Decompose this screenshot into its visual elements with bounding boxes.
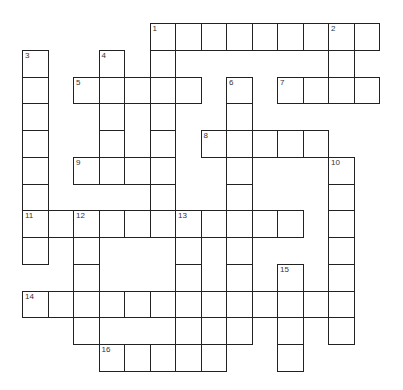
- crossword-cell[interactable]: [252, 23, 279, 51]
- crossword-cell[interactable]: [175, 237, 202, 265]
- crossword-cell[interactable]: [303, 291, 330, 319]
- crossword-cell[interactable]: [73, 291, 100, 319]
- crossword-cell[interactable]: 1: [150, 23, 177, 51]
- crossword-cell[interactable]: [22, 103, 49, 131]
- crossword-cell[interactable]: [22, 130, 49, 158]
- crossword-cell[interactable]: [175, 344, 202, 372]
- crossword-cell[interactable]: [252, 130, 279, 158]
- crossword-cell[interactable]: [277, 23, 304, 51]
- crossword-cell[interactable]: [175, 23, 202, 51]
- crossword-cell[interactable]: [150, 210, 177, 238]
- crossword-cell[interactable]: [99, 157, 126, 185]
- crossword-cell[interactable]: [277, 210, 304, 238]
- crossword-cell[interactable]: [48, 291, 75, 319]
- crossword-cell[interactable]: [252, 210, 279, 238]
- crossword-cell[interactable]: [48, 210, 75, 238]
- crossword-cell[interactable]: 11: [22, 210, 49, 238]
- crossword-cell[interactable]: [328, 237, 355, 265]
- crossword-cell[interactable]: [226, 103, 253, 131]
- crossword-cell[interactable]: [124, 344, 151, 372]
- crossword-cell[interactable]: 5: [73, 77, 100, 105]
- crossword-cell[interactable]: [99, 77, 126, 105]
- crossword-cell[interactable]: [328, 264, 355, 292]
- crossword-cell[interactable]: [277, 317, 304, 345]
- crossword-cell[interactable]: [303, 130, 330, 158]
- crossword-cell[interactable]: [150, 130, 177, 158]
- crossword-cell[interactable]: [201, 210, 228, 238]
- crossword-cell[interactable]: [22, 77, 49, 105]
- crossword-cell[interactable]: [226, 317, 253, 345]
- crossword-cell[interactable]: [201, 291, 228, 319]
- clue-number: 8: [204, 132, 208, 140]
- crossword-cell[interactable]: [175, 291, 202, 319]
- crossword-cell[interactable]: [99, 210, 126, 238]
- crossword-cell[interactable]: [124, 77, 151, 105]
- crossword-cell[interactable]: [328, 291, 355, 319]
- crossword-cell[interactable]: [22, 157, 49, 185]
- clue-number: 5: [76, 79, 80, 87]
- crossword-cell[interactable]: [150, 77, 177, 105]
- crossword-cell[interactable]: [124, 157, 151, 185]
- crossword-cell[interactable]: [150, 157, 177, 185]
- crossword-cell[interactable]: 16: [99, 344, 126, 372]
- crossword-cell[interactable]: [175, 264, 202, 292]
- crossword-cell[interactable]: [150, 103, 177, 131]
- crossword-cell[interactable]: [354, 77, 381, 105]
- crossword-cell[interactable]: [73, 317, 100, 345]
- crossword-cell[interactable]: [226, 210, 253, 238]
- crossword-cell[interactable]: 4: [99, 50, 126, 78]
- crossword-cell[interactable]: [328, 184, 355, 212]
- crossword-cell[interactable]: [22, 237, 49, 265]
- clue-number: 15: [280, 266, 289, 274]
- crossword-cell[interactable]: [73, 264, 100, 292]
- crossword-cell[interactable]: 2: [328, 23, 355, 51]
- crossword-cell[interactable]: 6: [226, 77, 253, 105]
- crossword-cell[interactable]: 9: [73, 157, 100, 185]
- crossword-cell[interactable]: [150, 344, 177, 372]
- crossword-cell[interactable]: [303, 77, 330, 105]
- crossword-cell[interactable]: [277, 291, 304, 319]
- crossword-cell[interactable]: [99, 103, 126, 131]
- crossword-cell[interactable]: [226, 184, 253, 212]
- crossword-cell[interactable]: [124, 210, 151, 238]
- crossword-cell[interactable]: [150, 50, 177, 78]
- crossword-cell[interactable]: [328, 50, 355, 78]
- crossword-cell[interactable]: [328, 210, 355, 238]
- clue-number: 1: [153, 25, 157, 33]
- crossword-cell[interactable]: [354, 23, 381, 51]
- crossword-cell[interactable]: [175, 317, 202, 345]
- crossword-cell[interactable]: [150, 291, 177, 319]
- crossword-cell[interactable]: [150, 184, 177, 212]
- crossword-cell[interactable]: 8: [201, 130, 228, 158]
- clue-number: 2: [331, 25, 335, 33]
- crossword-cell[interactable]: [22, 184, 49, 212]
- crossword-cell[interactable]: 13: [175, 210, 202, 238]
- crossword-cell[interactable]: [201, 344, 228, 372]
- crossword-cell[interactable]: [226, 291, 253, 319]
- crossword-cell[interactable]: [277, 130, 304, 158]
- crossword-cell[interactable]: 14: [22, 291, 49, 319]
- crossword-cell[interactable]: 7: [277, 77, 304, 105]
- crossword-cell[interactable]: 15: [277, 264, 304, 292]
- crossword-cell[interactable]: [303, 23, 330, 51]
- crossword-cell[interactable]: [226, 237, 253, 265]
- crossword-cell[interactable]: [201, 23, 228, 51]
- clue-number: 3: [25, 52, 29, 60]
- crossword-cell[interactable]: [226, 23, 253, 51]
- crossword-cell[interactable]: [73, 237, 100, 265]
- crossword-cell[interactable]: [226, 130, 253, 158]
- crossword-cell[interactable]: [252, 291, 279, 319]
- crossword-cell[interactable]: [175, 77, 202, 105]
- crossword-cell[interactable]: [99, 130, 126, 158]
- crossword-cell[interactable]: [226, 264, 253, 292]
- crossword-cell[interactable]: [328, 77, 355, 105]
- crossword-cell[interactable]: [328, 317, 355, 345]
- clue-number: 10: [331, 159, 340, 167]
- crossword-cell[interactable]: [277, 344, 304, 372]
- crossword-cell[interactable]: 12: [73, 210, 100, 238]
- crossword-cell[interactable]: [226, 157, 253, 185]
- crossword-cell[interactable]: 3: [22, 50, 49, 78]
- crossword-cell[interactable]: [99, 291, 126, 319]
- crossword-cell[interactable]: 10: [328, 157, 355, 185]
- crossword-cell[interactable]: [124, 291, 151, 319]
